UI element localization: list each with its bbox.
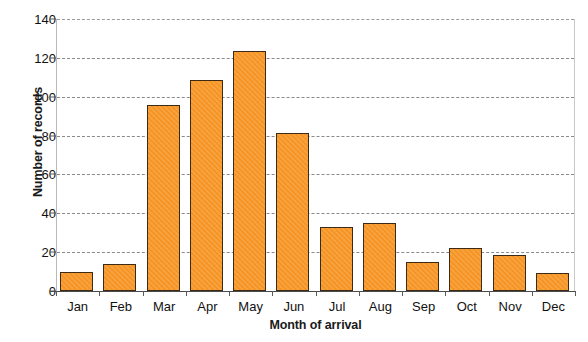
x-tick-mark	[402, 291, 403, 296]
x-tick-mark	[575, 291, 576, 296]
x-tick-label-sep: Sep	[402, 299, 445, 314]
x-tick-label-jul: Jul	[316, 299, 359, 314]
bar-jul[interactable]	[320, 227, 353, 291]
x-tick-mark	[272, 291, 273, 296]
bar-slot	[316, 19, 359, 291]
bar-may[interactable]	[233, 51, 266, 291]
x-tick-label-feb: Feb	[99, 299, 142, 314]
bar-slot	[489, 19, 532, 291]
bar-dec[interactable]	[536, 273, 569, 291]
bar-jan[interactable]	[60, 272, 93, 291]
bar-slot	[359, 19, 402, 291]
bar-slot	[56, 19, 99, 291]
x-tick-mark	[445, 291, 446, 296]
bar-slot	[186, 19, 229, 291]
x-tick-mark	[56, 291, 57, 296]
bar-slot	[532, 19, 575, 291]
bar-apr[interactable]	[190, 80, 223, 291]
bar-slot	[99, 19, 142, 291]
x-tick-label-mar: Mar	[143, 299, 186, 314]
x-tick-label-jan: Jan	[56, 299, 99, 314]
x-tick-label-oct: Oct	[445, 299, 488, 314]
bar-sep[interactable]	[406, 262, 439, 291]
bar-slot	[143, 19, 186, 291]
bar-slot	[445, 19, 488, 291]
bar-mar[interactable]	[147, 105, 180, 292]
bar-slot	[229, 19, 272, 291]
x-tick-mark	[186, 291, 187, 296]
bar-nov[interactable]	[493, 255, 526, 291]
x-tick-label-may: May	[229, 299, 272, 314]
x-tick-mark	[99, 291, 100, 296]
bar-oct[interactable]	[449, 248, 482, 291]
bar-jun[interactable]	[276, 133, 309, 291]
x-tick-label-apr: Apr	[186, 299, 229, 314]
x-tick-mark	[359, 291, 360, 296]
x-tick-label-nov: Nov	[489, 299, 532, 314]
bar-slot	[402, 19, 445, 291]
x-tick-mark	[489, 291, 490, 296]
bar-slot	[272, 19, 315, 291]
x-tick-label-jun: Jun	[272, 299, 315, 314]
x-tick-label-aug: Aug	[359, 299, 402, 314]
bar-aug[interactable]	[363, 223, 396, 291]
x-tick-mark	[229, 291, 230, 296]
x-axis-title: Month of arrival	[56, 318, 575, 332]
x-tick-mark	[532, 291, 533, 296]
bars-layer	[56, 19, 575, 291]
x-tick-mark	[143, 291, 144, 296]
x-tick-label-dec: Dec	[532, 299, 575, 314]
bar-chart: Number of records 020406080100120140 Jan…	[0, 0, 588, 342]
x-tick-mark	[316, 291, 317, 296]
bar-feb[interactable]	[103, 264, 136, 291]
y-axis-ticks: 020406080100120140	[0, 0, 56, 342]
